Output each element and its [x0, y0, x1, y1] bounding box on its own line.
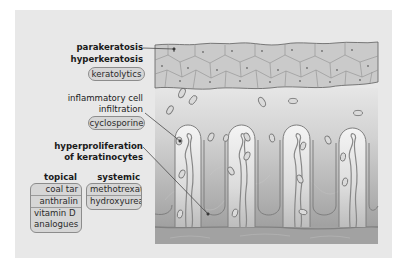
label-hyperproliferation-line1: hyperproliferation — [54, 141, 143, 152]
stratum-corneum — [155, 42, 378, 89]
label-parakeratosis: parakeratosis — [76, 42, 143, 53]
drug-methotrexate: methotrexate — [87, 184, 141, 196]
label-inflammatory-line1: inflammatory cell — [68, 93, 143, 104]
drug-hydroxyurea: hydroxyurea — [87, 196, 141, 209]
label-hyperproliferation-line2: of keratinocytes — [64, 152, 143, 163]
dermis-layer — [155, 226, 378, 244]
drug-vitamin-d-line2: analogues — [31, 219, 81, 232]
treatment-cyclosporine: cyclosporine — [88, 116, 145, 130]
label-hyperkeratosis: hyperkeratosis — [71, 54, 143, 65]
drug-coal-tar: coal tar — [31, 184, 81, 196]
treatment-keratolytics: keratolytics — [88, 67, 145, 81]
topical-heading: topical — [44, 172, 77, 182]
topical-drug-box: coal tar anthralin vitamin D analogues — [30, 183, 82, 233]
drug-anthralin: anthralin — [31, 196, 81, 208]
drug-vitamin-d-line1: vitamin D — [31, 208, 81, 219]
label-inflammatory-line2: infiltration — [99, 104, 143, 115]
systemic-heading: systemic — [97, 172, 140, 182]
systemic-drug-box: methotrexate hydroxyurea — [86, 183, 142, 210]
